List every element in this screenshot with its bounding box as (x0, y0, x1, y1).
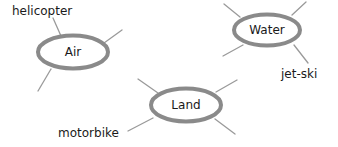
mind-map-canvas: Air Water Land helicopter jet-ski motorb… (0, 0, 338, 147)
node-label-land: Land (171, 98, 200, 112)
branch-line (215, 119, 235, 134)
node-label-air: Air (65, 45, 82, 59)
branch-line (38, 69, 51, 91)
branch-line (223, 45, 243, 56)
branch-label-motorbike: motorbike (58, 126, 119, 140)
branch-label-jet-ski: jet-ski (280, 67, 317, 81)
branch-line (292, 2, 306, 15)
branch-line (104, 30, 122, 43)
branch-line (138, 79, 158, 93)
branch-line-jet-ski (294, 45, 308, 63)
branch-line (216, 80, 237, 92)
branch-line-helicopter (53, 18, 61, 36)
branch-label-helicopter: helicopter (12, 4, 72, 18)
node-label-water: Water (249, 23, 285, 37)
branch-line-motorbike (128, 118, 153, 131)
branch-line (224, 4, 240, 17)
